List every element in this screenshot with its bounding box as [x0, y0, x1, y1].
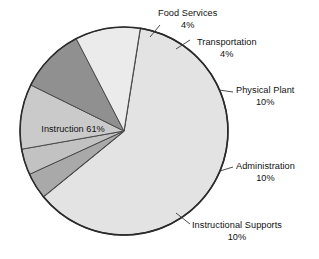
slice-label-instruction: Instruction 61%	[37, 124, 109, 136]
slice-label-instructional-supports-name: Instructional Supports	[192, 220, 282, 230]
slice-label-instructional-supports-percent: 10%	[192, 232, 282, 244]
slice-label-administration: Administration 10%	[236, 161, 295, 184]
slice-label-food-services: Food Services 4%	[158, 8, 217, 31]
slice-label-food-services-name: Food Services	[158, 8, 217, 18]
slice-label-food-services-percent: 4%	[158, 20, 217, 32]
slice-label-administration-name: Administration	[236, 161, 295, 171]
slice-label-physical-plant: Physical Plant 10%	[236, 85, 294, 108]
slice-label-physical-plant-name: Physical Plant	[236, 85, 294, 95]
slice-label-transportation: Transportation 4%	[197, 37, 257, 60]
pie-chart: Instruction 61% Food Services 4% Transpo…	[0, 0, 319, 259]
slice-label-instructional-supports: Instructional Supports 10%	[192, 220, 282, 243]
slice-label-instruction-percent: 61%	[86, 124, 104, 134]
slice-label-transportation-percent: 4%	[197, 49, 257, 61]
slice-label-transportation-name: Transportation	[197, 37, 257, 47]
slice-label-administration-percent: 10%	[236, 173, 295, 185]
slice-label-physical-plant-percent: 10%	[236, 97, 294, 109]
slice-label-instruction-name: Instruction	[41, 124, 83, 134]
